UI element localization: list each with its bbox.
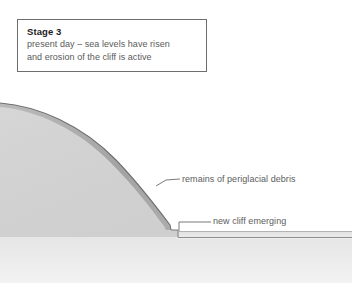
annotation-remains-of-periglacial-debris: remains of periglacial debris: [182, 174, 296, 184]
stage-title: Stage 3: [27, 25, 198, 38]
leader-line-periglacial-debris: [156, 179, 180, 186]
stage-description-line-1: present day – sea levels have risen: [27, 38, 198, 51]
annotation-new-cliff-emerging: new cliff emerging: [213, 216, 286, 226]
stage-description-line-2: and erosion of the cliff is active: [27, 51, 198, 64]
stage-caption-box: Stage 3 present day – sea levels have ri…: [17, 19, 207, 72]
leader-line-new-cliff: [179, 222, 211, 231]
stage-3-cliff-diagram: Stage 3 present day – sea levels have ri…: [0, 0, 352, 283]
cliff-mass: [0, 104, 178, 237]
foreshore-mass: [0, 237, 352, 283]
